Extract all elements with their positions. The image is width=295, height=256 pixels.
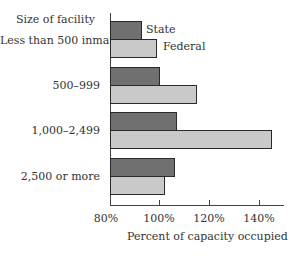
category-label: 1,000–2,499 (0, 124, 100, 137)
x-tick (209, 200, 210, 205)
bar-state (110, 158, 175, 177)
x-tick (159, 200, 160, 205)
x-axis-title: Percent of capacity occupied (127, 230, 288, 243)
bar-federal (110, 176, 165, 195)
x-tick (259, 200, 260, 205)
bar-federal (110, 130, 272, 149)
category-label: 500–999 (0, 79, 100, 92)
x-tick-label: 120% (189, 212, 229, 225)
category-label: Less than 500 inmates (0, 34, 100, 47)
x-axis-line (110, 205, 284, 206)
x-tick-label: 80% (86, 212, 126, 225)
bar-state (110, 112, 177, 131)
x-tick-label: 140% (239, 212, 279, 225)
bar-federal (110, 39, 157, 58)
bar-federal (110, 85, 197, 104)
legend-federal-label: Federal (163, 40, 205, 53)
x-tick-label: 100% (139, 212, 179, 225)
bar-state (110, 67, 160, 86)
bar-state (110, 21, 142, 40)
category-axis-title: Size of facility (16, 13, 95, 26)
category-label: 2,500 or more (0, 170, 100, 183)
legend-state-label: State (146, 23, 175, 36)
